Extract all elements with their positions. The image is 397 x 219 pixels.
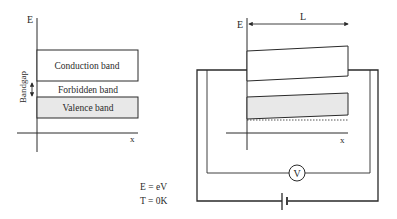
outer-circuit-wire-right xyxy=(288,70,378,201)
forbidden-band-label: Forbidden band xyxy=(58,85,118,95)
outer-circuit-wire-left xyxy=(197,70,282,201)
right-energy-axis-label: E xyxy=(237,19,243,30)
conduction-band-label: Conduction band xyxy=(54,61,119,71)
voltmeter: V xyxy=(289,165,305,181)
left-energy-axis-label: E xyxy=(27,14,33,25)
inner-circuit-wire-left xyxy=(207,70,289,173)
tilted-valence-band xyxy=(247,93,348,119)
band-diagram-figure: E x Conduction band Forbidden band Valen… xyxy=(0,0,397,219)
length-label: L xyxy=(300,11,306,22)
voltmeter-label: V xyxy=(293,168,301,179)
left-position-axis-label: x xyxy=(130,134,135,144)
tilted-conduction-band xyxy=(247,46,348,81)
inner-circuit-wire-right xyxy=(305,70,370,173)
energy-condition-text: E = eV xyxy=(140,182,167,192)
valence-band-label: Valence band xyxy=(63,103,114,113)
right-band-diagram: E x L xyxy=(226,11,348,150)
temperature-condition-text: T = 0K xyxy=(140,196,167,206)
external-circuit xyxy=(197,70,378,210)
left-band-diagram: E x Conduction band Forbidden band Valen… xyxy=(17,14,138,152)
bandgap-label: Bandgap xyxy=(18,71,28,103)
right-position-axis-label: x xyxy=(340,135,345,145)
